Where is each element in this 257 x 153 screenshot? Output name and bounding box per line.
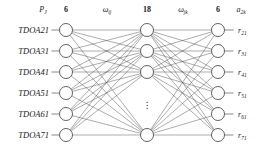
input-lead-lines	[52, 30, 60, 135]
header-weight-ij: ωij	[103, 5, 112, 14]
output-label-2: r41	[238, 68, 247, 77]
neural-network-figure: PJ 6 ωij 18 ωjk 6 a2k TDOA21 TDOA31 TDOA…	[0, 0, 257, 153]
output-label-0: r21	[238, 26, 247, 35]
input-label-0: TDOA21	[18, 25, 49, 35]
header-output-symbol: a2k	[236, 5, 245, 14]
hidden-node-1	[141, 45, 154, 58]
input-node-5	[60, 129, 73, 142]
input-nodes	[60, 24, 73, 142]
output-label-1: r31	[238, 47, 247, 56]
header-output-count: 6	[216, 5, 220, 14]
header-input-symbol: PJ	[39, 5, 46, 14]
input-label-2: TDOA41	[18, 67, 49, 77]
output-lead-lines	[225, 30, 234, 135]
edges-input-to-hidden	[70, 30, 143, 135]
hidden-node-0	[141, 24, 154, 37]
header-hidden-count: 18	[143, 5, 151, 14]
output-node-4	[212, 108, 225, 121]
input-label-3: TDOA51	[18, 88, 49, 98]
header-weight-jk: ωjk	[178, 5, 188, 14]
output-label-5: r71	[238, 131, 247, 140]
input-label-4: TDOA61	[18, 109, 49, 119]
input-node-2	[60, 66, 73, 79]
output-label-4: r61	[238, 110, 247, 119]
output-node-1	[212, 45, 225, 58]
hidden-node-2	[141, 66, 154, 79]
output-node-0	[212, 24, 225, 37]
output-node-3	[212, 87, 225, 100]
input-node-3	[60, 87, 73, 100]
hidden-nodes	[141, 24, 154, 142]
input-node-0	[60, 24, 73, 37]
output-nodes	[212, 24, 225, 142]
output-node-5	[212, 129, 225, 142]
input-node-4	[60, 108, 73, 121]
input-node-1	[60, 45, 73, 58]
output-label-3: r51	[238, 89, 247, 98]
header-input-count: 6	[64, 5, 68, 14]
hidden-layer-ellipsis-icon: ...	[146, 98, 149, 107]
input-label-1: TDOA31	[18, 46, 49, 56]
output-node-2	[212, 66, 225, 79]
hidden-node-3	[141, 129, 154, 142]
edges-hidden-to-output	[151, 30, 215, 135]
input-label-5: TDOA71	[18, 130, 49, 140]
